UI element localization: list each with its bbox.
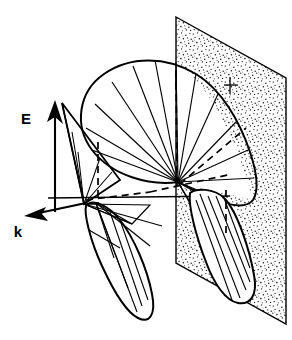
figure-root: E k — [0, 0, 292, 340]
e-vector-label: E — [21, 110, 31, 127]
diagram-canvas: E k — [0, 0, 292, 340]
k-vector-label: k — [14, 223, 23, 240]
